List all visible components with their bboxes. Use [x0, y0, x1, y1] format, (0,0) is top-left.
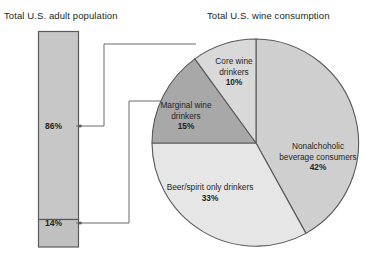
pie-label-marginal-wine-line2: drinkers	[171, 111, 201, 121]
pie-label-core-wine-line1: Core wine	[215, 56, 252, 66]
leader-dot-14	[79, 222, 82, 225]
pie-label-nonalcoholic-line1: Nonalchoholic	[292, 141, 344, 151]
bar-label-14: 14%	[45, 218, 62, 228]
pie-label-beer-spirit-pct: 33%	[145, 193, 275, 204]
leader-dot-86	[79, 125, 82, 128]
pie-label-nonalcoholic: Nonalchoholic beverage consumers 42%	[262, 141, 374, 173]
figure-root: Total U.S. adult population Total U.S. w…	[0, 0, 375, 266]
stacked-bar-group	[39, 32, 79, 248]
bar-label-86: 86%	[45, 121, 62, 131]
pie-label-marginal-wine-pct: 15%	[147, 121, 225, 132]
pie-label-nonalcoholic-pct: 42%	[262, 162, 374, 173]
pie-label-marginal-wine-line1: Marginal wine	[160, 100, 211, 110]
pie-label-core-wine-pct: 10%	[198, 77, 270, 88]
pie-label-beer-spirit-line1: Beer/spirit only drinkers	[167, 182, 254, 192]
pie-label-core-wine-line2: drinkers	[219, 67, 249, 77]
pie-label-core-wine: Core wine drinkers 10%	[198, 56, 270, 88]
pie-label-marginal-wine: Marginal wine drinkers 15%	[147, 100, 225, 132]
pie-label-beer-spirit: Beer/spirit only drinkers 33%	[145, 182, 275, 203]
pie-label-nonalcoholic-line2: beverage consumers	[279, 152, 356, 162]
